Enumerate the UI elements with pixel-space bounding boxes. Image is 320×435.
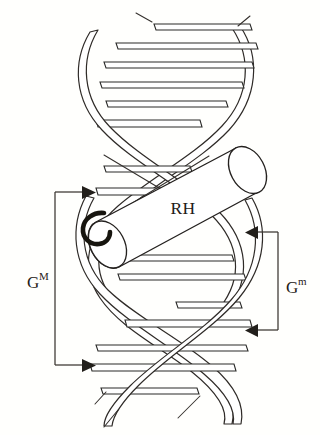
major-groove-label-superscript: M bbox=[39, 270, 49, 282]
minor-groove-label-superscript: m bbox=[298, 275, 307, 287]
minor-groove-label-base: G bbox=[286, 278, 298, 297]
recognition-helix-label: RH bbox=[170, 198, 195, 218]
dna-helix-diagram: RH G M G m bbox=[0, 0, 320, 435]
major-groove-label-base: G bbox=[27, 273, 39, 292]
figure-root: RH G M G m bbox=[0, 0, 320, 435]
